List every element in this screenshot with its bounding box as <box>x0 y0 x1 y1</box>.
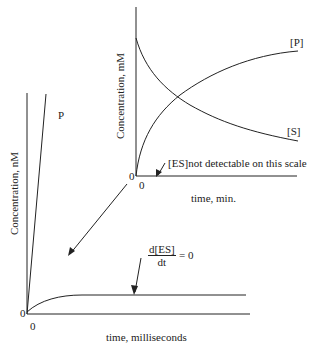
top-y-origin: 0 <box>129 171 135 182</box>
diagram-canvas <box>0 0 320 347</box>
top-x-axis-label: time, min. <box>191 193 236 204</box>
p-line <box>27 94 46 314</box>
bottom-x-axis-label: time, milliseconds <box>106 332 187 343</box>
p-label: P <box>58 110 64 121</box>
fraction-numerator: d[ES] <box>148 243 176 256</box>
top-x-origin: 0 <box>139 180 145 191</box>
bottom-y-axis-label: Concentration, nM <box>9 152 20 235</box>
top-y-axis-label: Concentration, mM <box>115 53 126 139</box>
zoom-arrowhead <box>68 247 75 256</box>
es-curve <box>27 295 246 312</box>
derivative-rhs: = 0 <box>179 250 193 261</box>
fraction-denominator: dt <box>148 256 176 268</box>
product-label: [P] <box>290 37 303 48</box>
zoom-arrow <box>70 184 127 254</box>
derivative-fraction: d[ES] dt <box>148 243 176 268</box>
bottom-y-origin: 0 <box>20 308 26 319</box>
steady-state-arrowhead <box>131 285 138 295</box>
bottom-x-origin: 0 <box>30 321 36 332</box>
substrate-label: [S] <box>287 126 300 137</box>
substrate-curve <box>136 38 298 141</box>
es-annotation: [ES]not detectable on this scale <box>168 158 307 169</box>
